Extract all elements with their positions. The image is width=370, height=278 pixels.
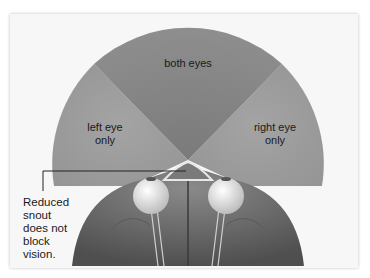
callout-text: Reduced snout does not block vision. [23,196,69,261]
callout-line: block [23,235,69,248]
callout-line: does not [23,222,69,235]
callout-line: snout [23,209,69,222]
callout-line: Reduced [23,196,69,209]
label-right-eye-only: right eye only [240,121,310,147]
both-eyes-text: both eyes [164,57,212,69]
label-both-eyes: both eyes [148,57,228,70]
callout-line: vision. [23,248,69,261]
label-left-eye-only: left eye only [70,121,140,147]
left-eye-line2: only [70,134,140,147]
right-eye-line1: right eye [240,121,310,134]
left-eye-line1: left eye [70,121,140,134]
right-eye-line2: only [240,134,310,147]
